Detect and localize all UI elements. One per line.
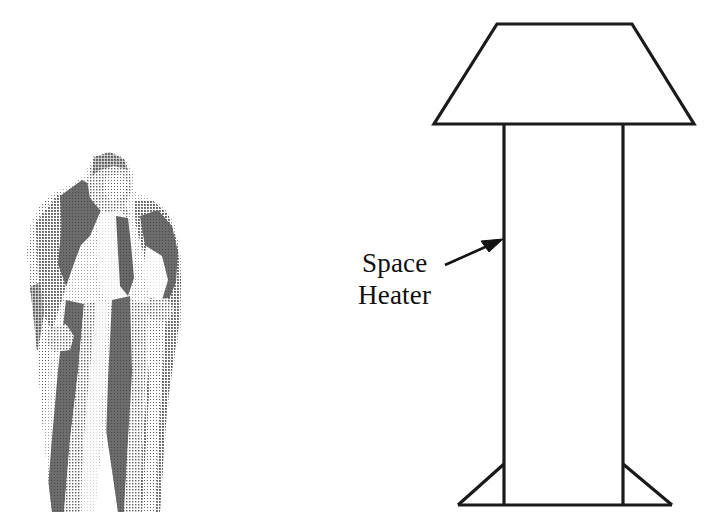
illustration-canvas: Space Heater xyxy=(0,0,714,532)
heater-shade xyxy=(434,24,694,124)
person-grain-overlay xyxy=(20,145,200,520)
leader-arrow-head xyxy=(481,239,503,252)
heater-base-left-diagonal xyxy=(458,464,504,505)
heater-base-right-diagonal xyxy=(623,464,672,505)
figure-drawing: Space Heater xyxy=(0,0,714,532)
annotation-label-line-2: Heater xyxy=(358,280,431,310)
person-illustration xyxy=(20,145,200,520)
leader-arrow xyxy=(445,239,503,265)
annotation-label-line-1: Space xyxy=(362,248,427,278)
space-heater-drawing xyxy=(434,24,694,505)
